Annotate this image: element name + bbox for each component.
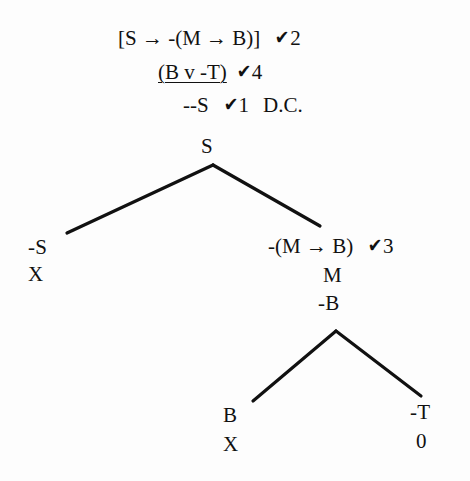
closure-marker-left: X — [28, 264, 43, 285]
right-branch-check-number: 3 — [383, 234, 394, 258]
premise-1-check-mark: ✔2 — [274, 26, 300, 50]
tree-node-neg-t: -T — [410, 402, 430, 423]
truth-tree-canvas: [S → -(M → B)]✔2 (B v -T)✔4 --S✔1D.C. S … — [0, 0, 470, 481]
premise-2-check-number: 4 — [252, 60, 263, 84]
tree-node-neg-b: -B — [318, 293, 339, 314]
right-branch-check-mark: ✔3 — [367, 234, 393, 258]
premise-2-formula: (B v -T) — [158, 60, 227, 84]
tree-node-m: M — [323, 265, 342, 286]
premise-3-check-mark: ✔1 — [223, 93, 249, 117]
tree-node-b: B — [223, 405, 237, 426]
tree-node-neg-s: -S — [28, 237, 47, 258]
tree-node-neg-m-arrow-b-row: -(M → B)✔3 — [268, 236, 394, 257]
premise-1-formula: [S → -(M → B)] — [118, 26, 260, 50]
premise-1-check-number: 2 — [290, 26, 301, 50]
premise-line-1: [S → -(M → B)]✔2 — [118, 28, 301, 49]
premise-line-3: --S✔1D.C. — [183, 95, 303, 116]
branch-line-root-left — [67, 165, 213, 233]
branch-line-root-right — [213, 165, 320, 226]
closure-marker-t: 0 — [416, 431, 427, 452]
branch-line-negb-right — [336, 331, 421, 396]
branch-line-negb-left — [253, 331, 336, 401]
tree-node-neg-m-arrow-b: -(M → B) — [268, 234, 353, 258]
premise-3-formula: --S — [183, 93, 209, 117]
check-icon: ✔ — [236, 62, 251, 81]
tree-node-root-s: S — [201, 136, 213, 157]
premise-3-check-number: 1 — [239, 93, 250, 117]
closure-marker-b: X — [223, 434, 238, 455]
premise-3-note: D.C. — [263, 93, 303, 117]
premise-line-2: (B v -T)✔4 — [158, 62, 262, 83]
check-icon: ✔ — [368, 236, 383, 255]
check-icon: ✔ — [223, 95, 238, 114]
check-icon: ✔ — [275, 28, 290, 47]
premise-2-check-mark: ✔4 — [236, 60, 262, 84]
